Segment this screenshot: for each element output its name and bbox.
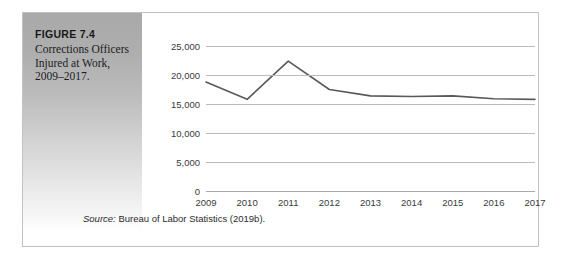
gridline-5000 (206, 162, 535, 163)
chart-area: 05,00010,00015,00020,00025,0002009201020… (142, 13, 538, 246)
figure-number-label: FIGURE 7.4 (35, 28, 132, 41)
y-axis-tick-label: 20,000 (171, 70, 200, 81)
x-axis-tick-label: 2009 (195, 197, 216, 208)
x-axis-tick-label: 2012 (319, 197, 340, 208)
line-series-svg (206, 46, 535, 191)
figure-container: FIGURE 7.4 Corrections Officers Injured … (22, 12, 539, 247)
y-axis-tick-label: 10,000 (171, 128, 200, 139)
figure-caption-text: Corrections Officers Injured at Work, 20… (35, 43, 132, 84)
plot-region: 05,00010,00015,00020,00025,0002009201020… (206, 46, 535, 191)
x-axis-tick-label: 2011 (278, 197, 298, 208)
x-axis-tick-label: 2014 (401, 197, 422, 208)
y-axis-tick-label: 0 (195, 186, 200, 197)
figure-caption-panel: FIGURE 7.4 Corrections Officers Injured … (23, 13, 142, 232)
gridline-0 (206, 191, 535, 192)
y-axis-tick-label: 15,000 (171, 99, 200, 110)
x-axis-tick-label: 2010 (237, 197, 258, 208)
x-axis-tick-label: 2015 (442, 197, 463, 208)
x-axis-tick-label: 2013 (360, 197, 381, 208)
series-polyline (206, 61, 535, 99)
y-axis-tick-label: 5,000 (176, 157, 200, 168)
gridline-15000 (206, 104, 535, 105)
x-axis-tick-label: 2017 (524, 197, 545, 208)
gridline-10000 (206, 133, 535, 134)
x-axis-tick-label: 2016 (483, 197, 504, 208)
source-text: Bureau of Labor Statistics (2019b). (116, 213, 265, 224)
y-axis-tick-label: 25,000 (171, 41, 200, 52)
source-note: Source: Bureau of Labor Statistics (2019… (83, 213, 265, 224)
gridline-25000 (206, 46, 535, 47)
source-prefix: Source: (83, 213, 116, 224)
gridline-20000 (206, 75, 535, 76)
